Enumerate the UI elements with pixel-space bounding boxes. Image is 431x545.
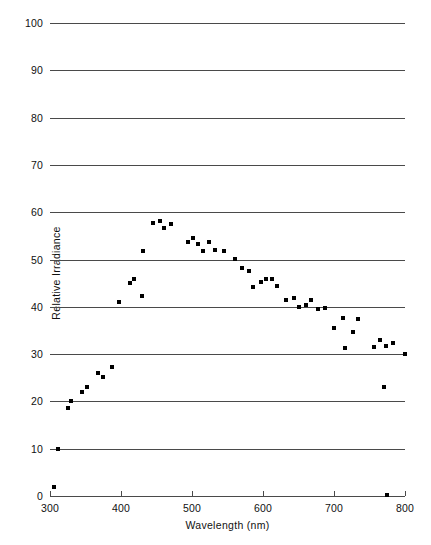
x-tick-400 (121, 491, 122, 496)
x-axis-label: Wavelength (nm) (50, 519, 405, 531)
data-point (110, 365, 114, 369)
data-point (247, 269, 251, 273)
data-point (391, 341, 395, 345)
data-point (270, 277, 274, 281)
y-tick-label-10: 10 (31, 443, 43, 455)
data-point (351, 330, 355, 334)
y-tick-label-100: 100 (25, 17, 43, 29)
data-point (275, 284, 279, 288)
data-point (297, 305, 301, 309)
gridline-y-70 (50, 165, 405, 166)
gridline-y-10 (50, 449, 405, 450)
data-point (259, 280, 263, 284)
x-tick-label-700: 700 (325, 502, 343, 514)
x-tick-label-800: 800 (396, 502, 414, 514)
data-point (284, 298, 288, 302)
data-point (304, 303, 308, 307)
data-point (162, 226, 166, 230)
data-point (292, 296, 296, 300)
data-point (323, 306, 327, 310)
data-point (80, 390, 84, 394)
x-tick-600 (263, 491, 264, 496)
data-point (85, 385, 89, 389)
data-point (56, 447, 60, 451)
data-point (128, 281, 132, 285)
data-point (264, 277, 268, 281)
gridline-y-40 (50, 307, 405, 308)
data-point (240, 266, 244, 270)
data-point (213, 248, 217, 252)
data-point (251, 285, 255, 289)
gridline-y-90 (50, 70, 405, 71)
data-point (207, 240, 211, 244)
data-point (140, 294, 144, 298)
x-tick-label-400: 400 (112, 502, 130, 514)
data-point (382, 385, 386, 389)
data-point (151, 221, 155, 225)
x-tick-800 (405, 491, 406, 496)
y-tick-label-60: 60 (31, 206, 43, 218)
data-point (141, 249, 145, 253)
data-point (201, 249, 205, 253)
data-point (233, 257, 237, 261)
y-tick-label-50: 50 (31, 254, 43, 266)
gridline-y-30 (50, 354, 405, 355)
x-tick-label-500: 500 (183, 502, 201, 514)
data-point (52, 485, 56, 489)
data-point (341, 316, 345, 320)
y-tick-label-70: 70 (31, 159, 43, 171)
x-tick-label-600: 600 (254, 502, 272, 514)
data-point (316, 307, 320, 311)
y-tick-label-30: 30 (31, 348, 43, 360)
x-tick-300 (50, 491, 51, 496)
x-tick-label-300: 300 (41, 502, 59, 514)
data-point (186, 240, 190, 244)
x-tick-500 (192, 491, 193, 496)
gridline-y-80 (50, 118, 405, 119)
data-point (196, 242, 200, 246)
y-tick-label-90: 90 (31, 64, 43, 76)
data-point (117, 300, 121, 304)
spectral-irradiance-chart: Relative Irradiance Wavelength (nm) 0102… (0, 0, 431, 545)
data-point (372, 345, 376, 349)
gridline-y-100 (50, 23, 405, 24)
y-tick-label-40: 40 (31, 301, 43, 313)
data-point (132, 277, 136, 281)
gridline-y-60 (50, 212, 405, 213)
gridline-y-50 (50, 260, 405, 261)
data-point (191, 236, 195, 240)
data-point (66, 406, 70, 410)
data-point (96, 371, 100, 375)
data-point (385, 493, 389, 497)
data-point (356, 317, 360, 321)
y-tick-label-80: 80 (31, 112, 43, 124)
data-point (309, 298, 313, 302)
y-tick-label-20: 20 (31, 395, 43, 407)
data-point (403, 352, 407, 356)
gridline-y-20 (50, 401, 405, 402)
data-point (343, 346, 347, 350)
data-point (158, 219, 162, 223)
data-point (222, 249, 226, 253)
x-tick-700 (334, 491, 335, 496)
data-point (169, 222, 173, 226)
plot-area: 0102030405060708090100300400500600700800 (50, 23, 405, 496)
data-point (378, 338, 382, 342)
data-point (101, 375, 105, 379)
x-axis-line (50, 496, 405, 497)
data-point (384, 344, 388, 348)
data-point (332, 326, 336, 330)
data-point (69, 399, 73, 403)
y-tick-label-0: 0 (37, 490, 43, 502)
